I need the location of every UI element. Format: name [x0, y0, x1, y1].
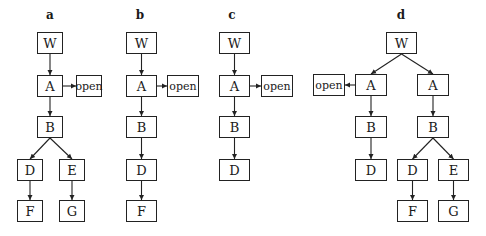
- node-a-F: F: [17, 200, 43, 222]
- node-c-B: B: [219, 116, 250, 138]
- node-b-W: W: [126, 32, 157, 54]
- node-d-G: G: [438, 200, 469, 222]
- node-c-W: W: [219, 32, 250, 54]
- node-c-open: open: [261, 75, 293, 97]
- edge-a-B-to-a-D: [30, 138, 50, 159]
- edge-a-B-to-a-E: [50, 138, 72, 159]
- edge-d-W-to-d-A2: [402, 54, 434, 74]
- node-b-A: A: [126, 75, 157, 97]
- panel-label-c: c: [228, 8, 235, 22]
- node-b-D: D: [126, 159, 157, 181]
- edge-d-B2-to-d-D2: [413, 138, 434, 159]
- node-c-D: D: [219, 159, 250, 181]
- node-d-A1: A: [355, 74, 387, 96]
- node-c-A: A: [219, 75, 250, 97]
- node-a-A: A: [37, 75, 63, 97]
- node-d-F: F: [397, 200, 428, 222]
- node-d-D2: D: [397, 159, 428, 181]
- node-d-open: open: [313, 74, 345, 96]
- node-b-B: B: [126, 116, 157, 138]
- node-d-B1: B: [355, 116, 387, 138]
- node-a-G: G: [59, 200, 85, 222]
- node-a-open: open: [76, 75, 102, 97]
- node-d-D1: D: [355, 159, 387, 181]
- node-d-E: E: [438, 159, 469, 181]
- node-a-D: D: [17, 159, 43, 181]
- node-d-A2: A: [417, 74, 449, 96]
- node-a-E: E: [59, 159, 85, 181]
- node-d-W: W: [386, 32, 417, 54]
- node-b-open: open: [167, 75, 199, 97]
- edge-d-W-to-d-A1: [371, 54, 402, 74]
- diagram-canvas: aWAopenBDEFGbWAopenBDFcWAopenBDdWopenAAB…: [0, 0, 486, 236]
- panel-label-d: d: [397, 8, 405, 22]
- node-a-B: B: [37, 116, 63, 138]
- panel-label-a: a: [46, 8, 54, 22]
- edge-d-B2-to-d-E: [433, 138, 454, 159]
- panel-label-b: b: [136, 8, 144, 22]
- node-d-B2: B: [417, 116, 449, 138]
- node-b-F: F: [126, 200, 157, 222]
- node-a-W: W: [37, 32, 63, 54]
